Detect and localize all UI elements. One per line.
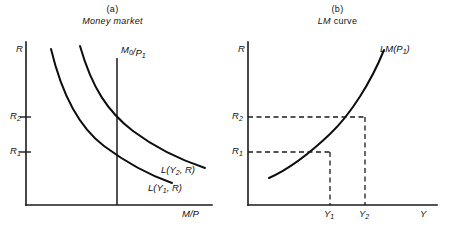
y-tick-label-r2-b: R2: [232, 111, 243, 122]
money-supply-label: M0/P1: [121, 45, 146, 60]
panel-money-market: (a) Money market R R2 R1 M0/P1 L(Y2, R) …: [0, 0, 225, 245]
lm-curve-label: LM(P1): [380, 44, 410, 55]
y-tick-label-r1-a: R1: [10, 146, 21, 157]
panel-b-plot: [225, 0, 450, 245]
money-demand-curve-y1: [51, 49, 172, 183]
y-axis-label-a: R: [16, 44, 23, 54]
y-tick-label-r1-b: R1: [232, 146, 243, 157]
money-demand-curve-y2: [80, 46, 205, 168]
curve-label-y2: L(Y2, R): [161, 165, 195, 176]
lm-curve: [269, 50, 384, 178]
panel-lm-curve: (b) LM curve R R2 R1 Y1 Y2 Y LM(P1): [225, 0, 450, 245]
x-axis-label-b: Y: [420, 209, 426, 219]
x-tick-label-y1: Y1: [324, 209, 334, 220]
economics-figure: (a) Money market R R2 R1 M0/P1 L(Y2, R) …: [0, 0, 450, 245]
y-axis-label-b: R: [238, 44, 245, 54]
y-tick-label-r2-a: R2: [10, 111, 21, 122]
x-tick-label-y2: Y2: [359, 209, 369, 220]
curve-label-y1: L(Y1, R): [148, 183, 182, 194]
x-axis-label-a: M/P: [182, 209, 199, 219]
